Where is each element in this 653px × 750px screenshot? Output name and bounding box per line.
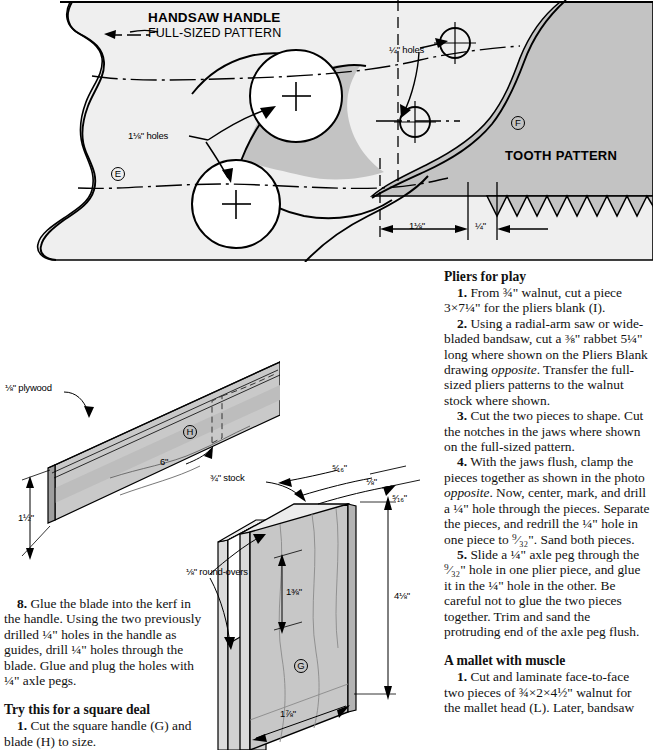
mallet-step-1-body: Cut and laminate face-to-face two pieces… <box>444 669 634 715</box>
roundovers-label: ⅛" round-overs <box>186 566 248 577</box>
plywood-arrowhead <box>84 406 94 418</box>
handsaw-handle-subtitle: FULL-SIZED PATTERN <box>148 26 281 40</box>
paragraph-square-1: 1. Cut the square handle (G) and blade (… <box>4 718 209 749</box>
pliers-step-number-3: 3. <box>457 408 467 423</box>
handle-height-arrow-top <box>384 496 392 510</box>
kerf-bottom-label: ⁵⁄₁₆" <box>392 492 407 503</box>
handle-height-arrow-bottom <box>384 686 392 700</box>
kerf-depth-label: 1⅜" <box>286 586 302 597</box>
paragraph-mallet-1: 1. Cut and laminate face-to-face two pie… <box>444 669 650 715</box>
right-text-column: Pliers for play 1. From ¾" walnut, cut a… <box>444 268 650 716</box>
pliers-step-4-emphasis: opposite <box>444 485 489 500</box>
kerf-detail-arrow-1 <box>278 478 292 487</box>
part-label-g: G <box>294 659 308 673</box>
handsaw-handle-pattern-drawing: HANDSAW HANDLE FULL-SIZED PATTERN TOOTH … <box>0 0 653 262</box>
one-eighth-holes-label: 1⅛" holes <box>128 130 168 141</box>
kerf-detail-leader-3 <box>318 486 392 504</box>
plywood-leader <box>64 392 88 412</box>
dim-quarter-label: ¼" <box>475 220 486 231</box>
kerf-mid-label: ⅛" <box>366 476 377 487</box>
pliers-step-number-5: 5. <box>457 547 467 562</box>
handle-width-label: 1⅞" <box>280 708 296 719</box>
pliers-step-number-1: 1. <box>457 285 467 300</box>
square-handle-isometric-drawing: ⅛" round-overs ¾" stock ⁵⁄₁₆" ⅛" ⁵⁄₁₆" 1… <box>170 462 445 750</box>
blade-height-label: 1½" <box>18 512 34 523</box>
step-8-body: Glue the blade into the kerf in the hand… <box>4 596 201 688</box>
tooth-pattern-title: TOOTH PATTERN <box>505 148 617 163</box>
handle-height-label: 4⅛" <box>394 590 410 601</box>
pliers-step-4-body-pre: With the jaws flush, clamp the pieces to… <box>444 454 645 484</box>
square-step-number-1: 1. <box>17 718 27 733</box>
step-number-8: 8. <box>17 596 27 611</box>
dim-one-eighth-label: 1⅛" <box>409 220 425 231</box>
pliers-step-2-emphasis: opposite <box>491 362 536 377</box>
handle-front-left <box>240 532 250 750</box>
handsaw-handle-title: HANDSAW HANDLE <box>148 10 281 25</box>
paragraph-pliers-3: 3. Cut the two pieces to shape. Cut the … <box>444 408 650 454</box>
blade-length-label: 6" <box>160 456 168 467</box>
paragraph-pliers-1: 1. From ¾" walnut, cut a piece 3×7¼" for… <box>444 285 650 316</box>
blade-ext-line-top <box>22 470 50 480</box>
part-label-e: E <box>111 167 125 181</box>
square-step-1-body: Cut the square handle (G) and blade (H) … <box>4 718 191 748</box>
paragraph-step-8: 8. Glue the blade into the kerf in the h… <box>4 596 209 688</box>
stock-label: ¾" stock <box>210 472 245 483</box>
paragraph-pliers-5: 5. Slide a ¼" axle peg through the ⁹⁄₃₂"… <box>444 547 650 639</box>
heading-mallet-with-muscle: A mallet with muscle <box>444 652 650 669</box>
pliers-step-3-body: Cut the two pieces to shape. Cut the not… <box>444 408 643 454</box>
handle-front-right-edge <box>348 504 356 712</box>
heading-pliers-for-play: Pliers for play <box>444 268 650 285</box>
kerf-top-label: ⁵⁄₁₆" <box>332 462 347 473</box>
heading-square-deal: Try this for a square deal <box>4 701 209 718</box>
pliers-step-number-4: 4. <box>457 454 467 469</box>
magazine-page: HANDSAW HANDLE FULL-SIZED PATTERN TOOTH … <box>0 0 653 750</box>
left-text-column: 8. Glue the blade into the kerf in the h… <box>4 596 209 750</box>
kerf-detail-leader-2 <box>300 478 372 496</box>
blade-dim-height-arrow-bottom <box>26 548 34 560</box>
blade-ext-line-bottom <box>22 526 50 556</box>
handle-svg <box>170 462 445 750</box>
kerf-detail-line-a <box>370 466 406 474</box>
quarter-holes-label: ¼" holes <box>389 44 424 55</box>
handle-front-face <box>250 504 348 750</box>
paragraph-pliers-2: 2. Using a radial-arm saw or wide-bladed… <box>444 316 650 408</box>
part-label-f: F <box>511 116 525 130</box>
kerf-detail-line-b <box>382 480 420 488</box>
pliers-step-5-body: Slide a ¼" axle peg through the ⁹⁄₃₂" ho… <box>444 547 640 639</box>
paragraph-pliers-4: 4. With the jaws flush, clamp the pieces… <box>444 454 650 546</box>
part-label-h: H <box>183 425 197 439</box>
pliers-step-1-body: From ¾" walnut, cut a piece 3×7¼" for th… <box>444 285 622 315</box>
mallet-step-number-1: 1. <box>457 669 467 684</box>
pliers-step-number-2: 2. <box>457 316 467 331</box>
plywood-label: ⅛" plywood <box>5 382 52 393</box>
blade-bottom-edge <box>48 465 55 523</box>
pattern-svg <box>0 0 653 262</box>
